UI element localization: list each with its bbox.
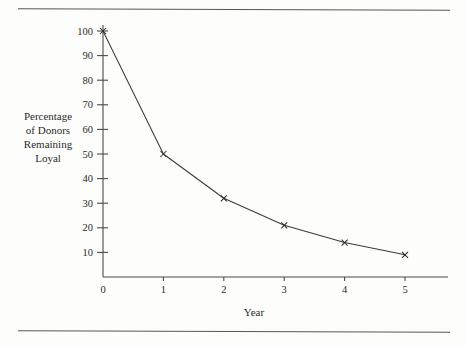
x-axis-title: Year [244, 306, 265, 318]
y-axis-title-line: Remaining [24, 138, 73, 150]
x-tick-label: 1 [161, 284, 166, 295]
x-axis: 012345 [100, 277, 448, 295]
y-tick-label: 70 [83, 99, 94, 110]
y-axis-title-line: of Donors [26, 124, 70, 136]
y-tick-label: 40 [83, 173, 94, 184]
y-tick-label: 50 [83, 149, 94, 160]
x-tick-label: 0 [100, 284, 105, 295]
x-tick-label: 4 [342, 284, 348, 295]
y-tick-label: 80 [83, 75, 94, 86]
line-chart: 102030405060708090100 012345 Percentageo… [0, 0, 466, 346]
chart-page: 102030405060708090100 012345 Percentageo… [0, 0, 466, 346]
data-series-donor-retention [103, 31, 405, 255]
data-point-marker [160, 151, 166, 157]
x-tick-label: 3 [282, 284, 287, 295]
y-tick-label: 10 [83, 247, 94, 258]
y-tick-label: 30 [83, 198, 94, 209]
y-tick-label: 100 [77, 26, 93, 37]
data-point-marker [281, 222, 287, 228]
data-point-marker [221, 195, 227, 201]
y-axis: 102030405060708090100 [77, 25, 108, 277]
x-tick-label: 2 [221, 284, 226, 295]
y-axis-title-line: Loyal [35, 152, 61, 164]
y-tick-label: 90 [83, 50, 94, 61]
y-axis-title-line: Percentage [24, 110, 72, 122]
data-point-markers [100, 28, 408, 258]
y-tick-label: 20 [83, 222, 94, 233]
x-tick-label: 5 [402, 284, 407, 295]
y-tick-label: 60 [83, 124, 94, 135]
x-axis-title-label: Year [244, 306, 265, 318]
y-axis-title: Percentageof DonorsRemainingLoyal [24, 110, 73, 164]
